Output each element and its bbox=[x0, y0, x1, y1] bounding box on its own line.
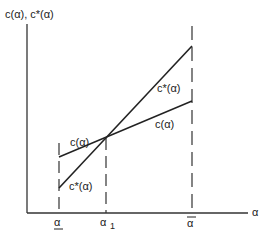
label-c-star-left: c*(α) bbox=[69, 180, 92, 192]
x-axis-label: α bbox=[252, 206, 259, 218]
tick-alpha-1: α 1 bbox=[100, 216, 115, 231]
tick-alpha-lower-label: α bbox=[54, 216, 61, 228]
tick-alpha-1-subscript: 1 bbox=[110, 221, 115, 231]
label-c-left: c(α) bbox=[70, 136, 89, 148]
tick-alpha-upper: α bbox=[187, 217, 196, 229]
y-axis-label: c(α), c*(α) bbox=[5, 8, 54, 20]
tick-alpha-1-label: α bbox=[100, 216, 107, 228]
diagram-canvas: c(α), c*(α) α c(α) c*(α) c*(α) c(α) α α … bbox=[0, 0, 269, 235]
tick-alpha-upper-label: α bbox=[187, 217, 194, 229]
tick-alpha-lower: α bbox=[54, 216, 63, 229]
label-c-right: c(α) bbox=[155, 118, 174, 130]
curve-c-star bbox=[59, 46, 192, 188]
label-c-star-right: c*(α) bbox=[157, 82, 180, 94]
